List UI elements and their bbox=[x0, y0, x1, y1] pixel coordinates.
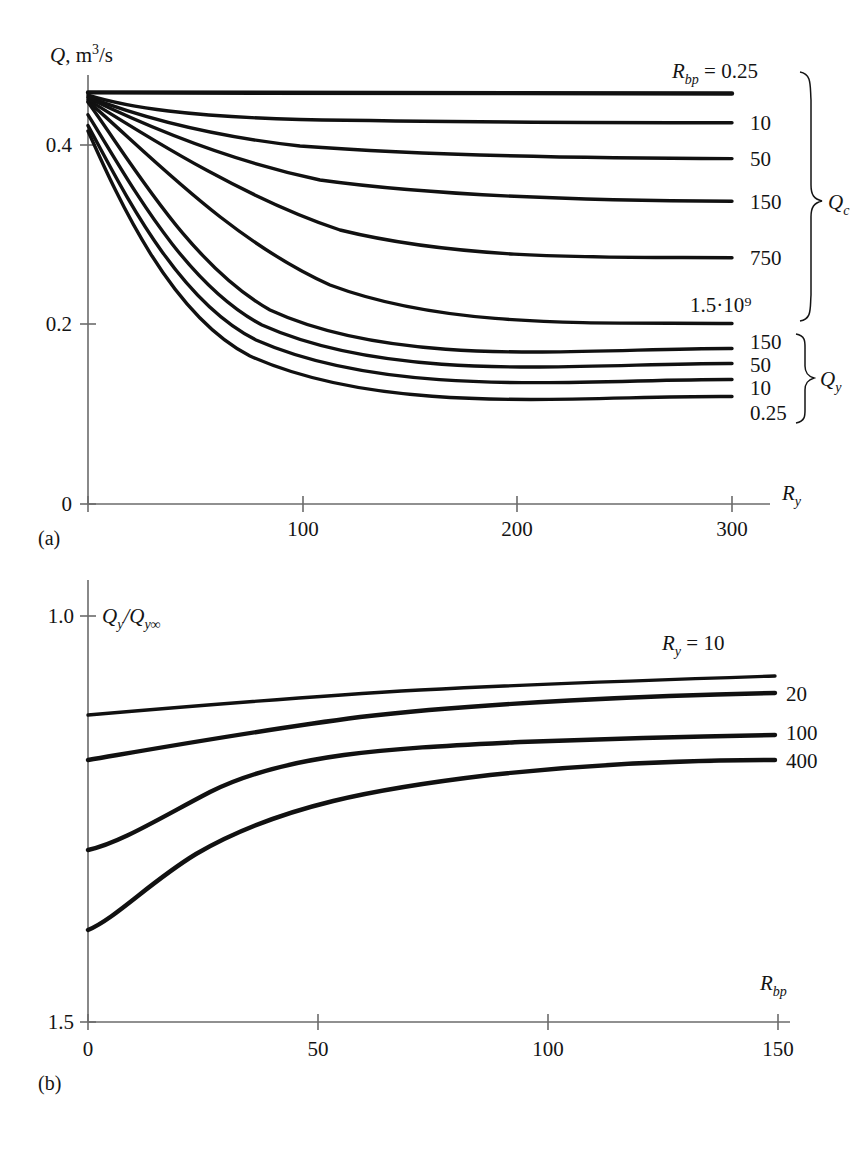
panel-a-group-qc-sym: Q bbox=[828, 190, 843, 214]
panel-a-curve-10 bbox=[88, 95, 732, 123]
panel-a-label-50y: 50 bbox=[750, 353, 771, 377]
panel-b-curve-20 bbox=[88, 693, 775, 760]
panel-b-ylabel-sym2: Q bbox=[129, 604, 144, 628]
panel-a-label-50: 50 bbox=[750, 147, 771, 171]
panel-b-xtick-150: 150 bbox=[762, 1037, 794, 1061]
panel-a-x-axis-title: Ry bbox=[781, 481, 802, 509]
panel-a-label-150y: 150 bbox=[750, 330, 782, 354]
svg-text:Rbp: Rbp bbox=[759, 971, 787, 999]
panel-a-xtick-100: 100 bbox=[287, 517, 319, 541]
panel-a-ylabel-sym: Q bbox=[50, 43, 65, 67]
panel-a-param-sub: bp bbox=[685, 72, 699, 87]
panel-a-curve-50 bbox=[88, 97, 732, 159]
panel-b-xtick-50: 50 bbox=[308, 1037, 329, 1061]
panel-b-label-100: 100 bbox=[786, 721, 818, 745]
panel-a-label-10: 10 bbox=[750, 111, 771, 135]
figure-container: 0 0.2 0.4 100 200 300 Q, m3/s Ry bbox=[0, 0, 860, 1155]
panel-b-xlabel-sub: bp bbox=[773, 984, 787, 999]
panel-b-label-20: 20 bbox=[786, 682, 807, 706]
panel-b-curve-400 bbox=[88, 760, 775, 930]
panel-b-series-param-header: Ry = 10 bbox=[661, 631, 724, 659]
panel-a-series-param-header: Rbp = 0.25 bbox=[671, 59, 758, 87]
panel-a-group-qy-sym: Q bbox=[820, 367, 835, 391]
panel-a-ytick-0.4: 0.4 bbox=[46, 133, 73, 157]
panel-a-ylabel-sup: 3 bbox=[92, 42, 99, 57]
panel-a-curve-1.5e9 bbox=[88, 101, 732, 323]
panel-b-y-axis-title: Qy/Qy∞ bbox=[102, 604, 161, 632]
panel-a-group-label-qy: Qy bbox=[820, 367, 842, 395]
panel-b-xtick-0: 0 bbox=[83, 1037, 94, 1061]
panel-a-label-0: 0.25 bbox=[721, 59, 758, 83]
panel-a-caption: (a) bbox=[38, 527, 60, 550]
panel-b-ytick-1.5: 1.5 bbox=[48, 1010, 74, 1034]
panel-a-xtick-300: 300 bbox=[716, 517, 748, 541]
panel-a-label-150: 150 bbox=[750, 190, 782, 214]
panel-a-brace-qc bbox=[800, 72, 822, 321]
panel-a-y-axis-title: Q, m3/s bbox=[50, 42, 113, 67]
panel-b-ylabel-sym1: Q bbox=[102, 604, 117, 628]
panel-b-label-400: 400 bbox=[786, 749, 818, 773]
panel-a-curve-0.25 bbox=[88, 92, 732, 93]
panel-a-param-eq: = bbox=[704, 59, 721, 83]
panel-a-ytick-0.2: 0.2 bbox=[46, 312, 72, 336]
panel-b-param-eq: = bbox=[686, 631, 703, 655]
panel-b-param-sym: R bbox=[661, 631, 675, 655]
panel-b-caption: (b) bbox=[38, 1072, 61, 1095]
panel-a-group-qc-sub: c bbox=[843, 203, 850, 218]
panel-a-label-1.5e9: 1.5·10⁹ bbox=[690, 293, 752, 317]
panel-a-curve-0.25y bbox=[88, 131, 732, 399]
panel-b-ytick-1.0: 1.0 bbox=[48, 604, 74, 628]
panel-a-label-10y: 10 bbox=[750, 376, 771, 400]
panel-a-group-qy-sub: y bbox=[833, 380, 842, 395]
svg-text:Qy/Qy∞: Qy/Qy∞ bbox=[102, 604, 161, 632]
panel-a-label-750: 750 bbox=[750, 246, 782, 270]
chart-panel-b: 1.0 1.5 0 50 100 150 Qy/Qy∞ Rbp bbox=[0, 560, 860, 1155]
panel-a-label-0.25y: 0.25 bbox=[750, 401, 787, 425]
panel-a-ylabel-rest: , m bbox=[65, 43, 92, 67]
panel-b-xlabel-sym: R bbox=[759, 971, 773, 995]
panel-b-curve-100 bbox=[88, 735, 775, 850]
panel-a-ytick-0: 0 bbox=[62, 492, 73, 516]
panel-b-ylabel-sub2: y∞ bbox=[142, 617, 160, 632]
panel-a-brace-qy bbox=[796, 334, 814, 423]
panel-a-ylabel-tail: /s bbox=[99, 43, 113, 67]
panel-a-xtick-200: 200 bbox=[501, 517, 533, 541]
panel-b-xtick-100: 100 bbox=[532, 1037, 564, 1061]
svg-text:Ry: Ry bbox=[781, 481, 802, 509]
panel-a-param-sym: R bbox=[671, 59, 685, 83]
panel-a-group-label-qc: Qc bbox=[828, 190, 850, 218]
panel-a-xlabel-sym: R bbox=[781, 481, 795, 505]
panel-a-xlabel-sub: y bbox=[793, 494, 802, 509]
panel-a-label-1.5e9-text: 1.5·10⁹ bbox=[690, 293, 752, 317]
svg-text:Q, m3/s: Q, m3/s bbox=[50, 42, 113, 67]
chart-panel-a: 0 0.2 0.4 100 200 300 Q, m3/s Ry bbox=[0, 0, 860, 560]
panel-a-curve-10y bbox=[88, 126, 732, 383]
panel-b-x-axis-title: Rbp bbox=[759, 971, 787, 999]
panel-b-label-10: 10 bbox=[703, 631, 724, 655]
